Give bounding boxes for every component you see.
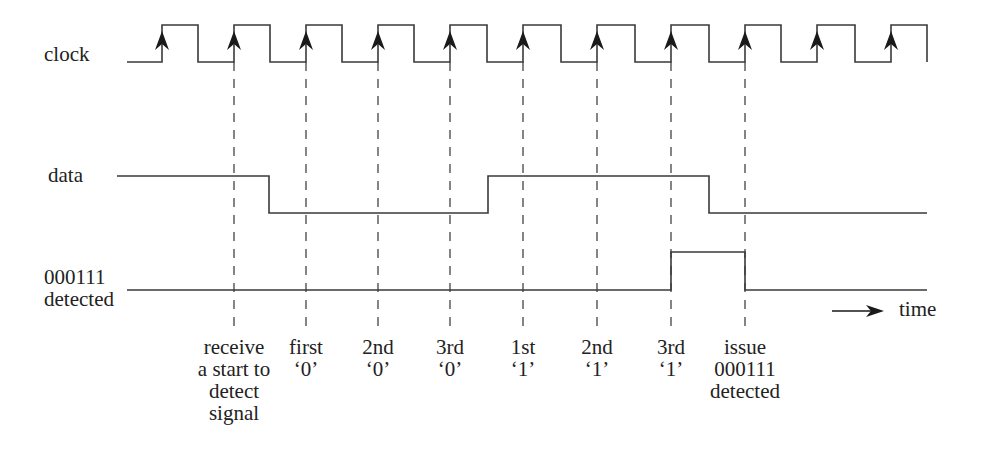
annotation-line: ‘1’ xyxy=(581,358,613,380)
time-arrow-icon xyxy=(832,305,884,317)
detected-waveform xyxy=(127,252,927,290)
data-waveform xyxy=(117,176,927,213)
annotation-line: detect xyxy=(198,380,270,402)
marker-annotation: 3rd‘0’ xyxy=(436,336,464,380)
marker-annotation: receivea start todetectsignal xyxy=(198,336,270,424)
annotation-line: issue xyxy=(710,336,780,358)
annotation-line: a start to xyxy=(198,358,270,380)
detected-label-line1: 000111 xyxy=(44,266,105,288)
annotation-line: ‘1’ xyxy=(657,358,685,380)
annotation-line: 000111 xyxy=(710,358,780,380)
annotation-line: ‘0’ xyxy=(362,358,394,380)
timing-diagram-canvas xyxy=(0,0,995,467)
marker-annotation: 2nd‘1’ xyxy=(581,336,613,380)
annotation-line: receive xyxy=(198,336,270,358)
marker-annotation: 1st‘1’ xyxy=(511,336,536,380)
annotation-line: detected xyxy=(710,380,780,402)
clock-edge-arrows xyxy=(155,31,898,50)
annotation-line: first xyxy=(289,336,323,358)
annotation-line: 2nd xyxy=(362,336,394,358)
marker-annotation: 2nd‘0’ xyxy=(362,336,394,380)
annotation-line: ‘1’ xyxy=(511,358,536,380)
detected-label-line2: detected xyxy=(44,288,114,310)
annotation-line: 1st xyxy=(511,336,536,358)
marker-annotation: 3rd‘1’ xyxy=(657,336,685,380)
annotation-line: signal xyxy=(198,402,270,424)
annotation-line: 3rd xyxy=(657,336,685,358)
annotation-line: 3rd xyxy=(436,336,464,358)
clock-label: clock xyxy=(44,43,89,65)
marker-annotation: issue000111detected xyxy=(710,336,780,402)
dashed-markers xyxy=(234,62,745,332)
annotation-line: 2nd xyxy=(581,336,613,358)
annotation-line: ‘0’ xyxy=(289,358,323,380)
annotation-line: ‘0’ xyxy=(436,358,464,380)
time-label: time xyxy=(899,298,936,320)
data-label: data xyxy=(48,164,83,186)
marker-annotation: first‘0’ xyxy=(289,336,323,380)
